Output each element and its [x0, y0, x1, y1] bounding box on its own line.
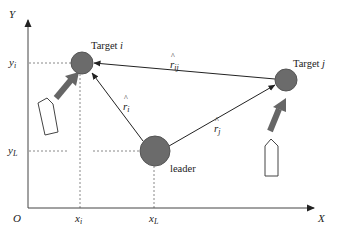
vector-r-ij [94, 63, 275, 79]
y-tick-L: yL [8, 145, 17, 158]
vector-label-r-j: ^rj [214, 123, 221, 136]
leader-label: leader [170, 164, 196, 175]
boat-i-icon [38, 98, 58, 135]
y-axis-label: Y [9, 9, 15, 20]
vector-r-j [169, 85, 275, 146]
target-i-node [71, 52, 93, 74]
heading-arrow-i-icon [56, 72, 79, 98]
y-tick-i: yi [9, 57, 16, 70]
leader-node [140, 136, 170, 166]
target-j-node [275, 69, 297, 91]
vector-label-r-i: ^ri [123, 101, 130, 114]
vector-r-i [92, 73, 143, 141]
boat-j-icon [265, 139, 278, 176]
vector-label-r-ij: ^rij [170, 59, 179, 72]
x-axis-label: X [318, 213, 325, 224]
target-j-label: Target j [293, 59, 325, 70]
target-i-label: Target i [91, 41, 123, 52]
dashed-guides [29, 63, 154, 208]
heading-arrow-j-icon [270, 98, 286, 131]
x-tick-L: xL [149, 213, 158, 226]
formation-diagram [0, 0, 340, 234]
x-tick-i: xi [75, 213, 82, 226]
origin-label: O [13, 213, 21, 224]
